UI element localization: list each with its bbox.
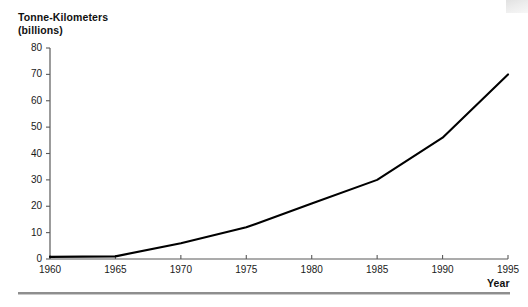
y-tick-label: 70 bbox=[16, 69, 42, 79]
x-tick-label: 1995 bbox=[486, 265, 528, 275]
x-tick-label: 1965 bbox=[93, 265, 137, 275]
x-tick-label: 1985 bbox=[355, 265, 399, 275]
y-tick-label: 30 bbox=[16, 175, 42, 185]
y-tick-label: 60 bbox=[16, 96, 42, 106]
x-tick-label: 1960 bbox=[28, 265, 72, 275]
y-tick-label: 80 bbox=[16, 43, 42, 53]
plot-area bbox=[0, 0, 528, 307]
y-tick-label: 50 bbox=[16, 122, 42, 132]
y-tick-label: 10 bbox=[16, 228, 42, 238]
axes bbox=[50, 48, 508, 259]
y-tick-label: 40 bbox=[16, 149, 42, 159]
x-tick-label: 1990 bbox=[421, 265, 465, 275]
footer-rule-shadow bbox=[18, 294, 510, 295]
chart-figure: Tonne-Kilometers (billions) 010203040506… bbox=[0, 0, 528, 307]
data-series-line bbox=[50, 74, 508, 257]
y-tick-label: 20 bbox=[16, 201, 42, 211]
x-tick-label: 1970 bbox=[159, 265, 203, 275]
y-tick-label: 0 bbox=[16, 254, 42, 264]
x-tick-label: 1980 bbox=[290, 265, 334, 275]
x-axis-title: Year bbox=[487, 277, 510, 289]
x-tick-label: 1975 bbox=[224, 265, 268, 275]
axis-ticks bbox=[46, 48, 508, 259]
